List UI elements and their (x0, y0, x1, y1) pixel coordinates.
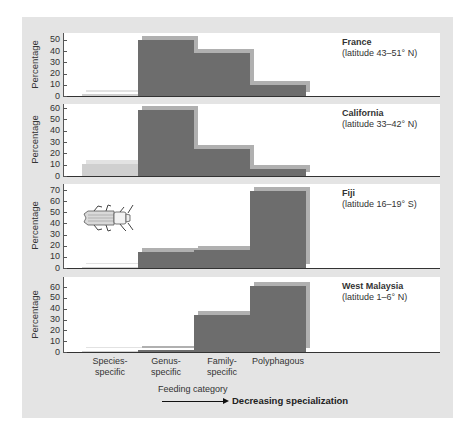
y-tick (63, 142, 67, 143)
y-tick-label: 70 (42, 186, 60, 195)
bar-family (194, 311, 255, 352)
y-tick-label: 30 (42, 138, 60, 147)
y-tick-label: 50 (42, 208, 60, 217)
region-latitude: (latitude 43–51° N) (342, 48, 417, 59)
bar-genus (138, 248, 199, 268)
y-tick-label: 50 (42, 293, 60, 302)
y-tick (63, 190, 67, 191)
region-name: France (342, 37, 417, 48)
arrow-right-icon (223, 398, 229, 404)
y-tick-label: 60 (42, 197, 60, 206)
y-tick-label: 20 (42, 69, 60, 78)
y-tick-label: 20 (42, 326, 60, 335)
y-tick (63, 320, 67, 321)
category-label: Family- (194, 356, 250, 367)
y-tick (63, 246, 67, 247)
y-tick (63, 309, 67, 310)
y-tick-label: 40 (42, 304, 60, 313)
category-label: Polyphagous (246, 356, 310, 367)
category-family: Family- specific (194, 356, 250, 378)
category-label: Genus- (138, 356, 194, 367)
bar-family (194, 49, 255, 96)
x-axis-line (63, 176, 440, 177)
decreasing-specialization-label: Decreasing specialization (232, 395, 348, 406)
y-tick (63, 352, 67, 353)
y-tick (63, 212, 67, 213)
y-tick (63, 62, 67, 63)
bar-genus (138, 36, 199, 96)
y-axis-title: Percentage (29, 284, 40, 344)
y-tick (63, 287, 67, 288)
beetle-icon (80, 203, 136, 233)
bar-polyphagous (250, 187, 311, 268)
y-tick-label: 10 (42, 80, 60, 89)
y-tick-label: 10 (42, 337, 60, 346)
region-latitude: (latitude 33–42° N) (342, 119, 417, 130)
category-genus: Genus- specific (138, 356, 194, 378)
x-axis-line (63, 268, 440, 269)
region-name: California (342, 108, 417, 119)
y-tick (63, 40, 67, 41)
y-tick (63, 330, 67, 331)
y-tick (63, 85, 67, 86)
bar-family (194, 145, 255, 176)
y-tick-label: 30 (42, 58, 60, 67)
y-axis-title: Percentage (29, 34, 40, 94)
y-tick (63, 235, 67, 236)
y-tick-label: 60 (42, 104, 60, 113)
y-tick (63, 298, 67, 299)
y-tick-label: 40 (42, 47, 60, 56)
y-axis-title: Percentage (29, 196, 40, 256)
y-tick-label: 60 (42, 283, 60, 292)
region-label: France(latitude 43–51° N) (342, 37, 417, 59)
region-latitude: (latitude 16–19° S) (342, 199, 417, 210)
y-tick-label: 50 (42, 35, 60, 44)
category-label: specific (194, 367, 250, 378)
region-label: California(latitude 33–42° N) (342, 108, 417, 130)
x-axis-line (63, 96, 440, 97)
bar-polyphagous (250, 165, 311, 176)
x-axis-title: Feeding category (158, 384, 228, 394)
region-latitude: (latitude 1–6° N) (342, 292, 407, 303)
bar-species (82, 160, 143, 176)
category-species: Species- specific (82, 356, 138, 378)
category-label: specific (82, 367, 138, 378)
y-tick (63, 96, 67, 97)
y-tick (63, 201, 67, 202)
y-tick-label: 0 (42, 172, 60, 181)
y-tick (63, 341, 67, 342)
category-label: Species- (82, 356, 138, 367)
y-tick (63, 119, 67, 120)
y-tick-label: 20 (42, 149, 60, 158)
bar-genus (138, 106, 199, 176)
x-axis-line (63, 352, 440, 353)
y-tick (63, 165, 67, 166)
bar-family (194, 246, 255, 268)
bar-polyphagous (250, 282, 311, 352)
bar-polyphagous (250, 81, 311, 96)
region-name: West Malaysia (342, 281, 407, 292)
y-tick-label: 0 (42, 92, 60, 101)
y-tick-label: 40 (42, 219, 60, 228)
y-tick-label: 10 (42, 160, 60, 169)
y-tick-label: 20 (42, 241, 60, 250)
y-tick-label: 0 (42, 348, 60, 357)
region-label: Fiji(latitude 16–19° S) (342, 188, 417, 210)
category-polyphagous: Polyphagous (246, 356, 310, 367)
y-tick-label: 0 (42, 264, 60, 273)
region-label: West Malaysia(latitude 1–6° N) (342, 281, 407, 303)
y-tick-label: 10 (42, 252, 60, 261)
y-tick (63, 131, 67, 132)
y-tick (63, 51, 67, 52)
y-tick-label: 50 (42, 115, 60, 124)
y-axis-line (63, 33, 64, 96)
y-tick (63, 257, 67, 258)
y-axis-line (63, 184, 64, 268)
y-tick-label: 30 (42, 315, 60, 324)
y-tick-label: 40 (42, 126, 60, 135)
arrow-line (162, 401, 224, 402)
y-tick (63, 108, 67, 109)
y-tick (63, 74, 67, 75)
category-label: specific (138, 367, 194, 378)
y-tick (63, 268, 67, 269)
